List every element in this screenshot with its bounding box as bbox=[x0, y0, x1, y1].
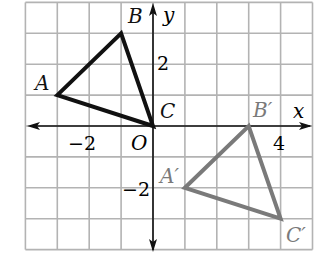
y-tick-label-neg2: −2 bbox=[122, 178, 150, 200]
y-tick-label-2: 2 bbox=[157, 52, 169, 74]
origin-label: O bbox=[131, 131, 147, 155]
vertex-label-c: C bbox=[160, 99, 175, 123]
vertex-label-a-prime: A′ bbox=[158, 164, 179, 188]
vertex-label-a: A bbox=[33, 71, 49, 95]
coordinate-plane: x y O −2 4 2 −2 A B C A′ B′ C′ bbox=[0, 0, 329, 264]
x-axis-label: x bbox=[293, 99, 304, 123]
labels: x y O −2 4 2 −2 A B C A′ B′ C′ bbox=[33, 3, 306, 247]
triangle-abc bbox=[57, 33, 153, 126]
x-tick-label-4: 4 bbox=[273, 132, 285, 154]
x-tick-label-neg2: −2 bbox=[68, 132, 96, 154]
vertex-label-b-prime: B′ bbox=[252, 98, 273, 122]
vertex-label-c-prime: C′ bbox=[286, 223, 306, 247]
vertex-label-b: B bbox=[127, 4, 143, 28]
triangle-a-prime-b-prime-c-prime bbox=[185, 126, 281, 219]
y-axis-label: y bbox=[162, 3, 175, 27]
